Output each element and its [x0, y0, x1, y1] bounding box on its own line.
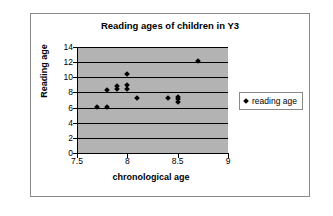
x-tick-mark: [127, 154, 128, 158]
legend-label: reading age: [252, 96, 297, 106]
y-tick-mark: [73, 47, 77, 48]
y-tick-mark: [73, 62, 77, 63]
x-tick-label: 8.5: [172, 157, 184, 166]
y-axis-title: Reading age: [39, 36, 49, 106]
chart-legend: reading age: [239, 92, 303, 110]
x-tick-label: 7.5: [71, 157, 83, 166]
x-axis-tick-labels: 7.588.59: [77, 157, 228, 169]
data-point: [135, 95, 141, 101]
gridline: [77, 92, 228, 93]
x-tick-label: 9: [226, 157, 231, 166]
x-tick-mark: [228, 154, 229, 158]
plot-area: [77, 47, 228, 153]
x-tick-label: 8: [125, 157, 130, 166]
y-tick-mark: [73, 138, 77, 139]
y-tick-label: 10: [64, 73, 73, 82]
gridline: [77, 108, 228, 109]
x-axis-title: chronological age: [51, 172, 251, 182]
x-tick-mark: [77, 154, 78, 158]
y-tick-mark: [73, 92, 77, 93]
gridline: [77, 123, 228, 124]
y-axis-line: [77, 47, 78, 154]
gridline: [77, 138, 228, 139]
gridline: [77, 77, 228, 78]
data-point: [165, 95, 171, 101]
x-axis-line: [77, 153, 229, 154]
y-tick-label: 12: [64, 58, 73, 67]
y-tick-mark: [73, 108, 77, 109]
gridline: [77, 62, 228, 63]
chart-frame: Reading ages of children in Y3 024681012…: [30, 13, 310, 197]
gridline: [77, 47, 228, 48]
y-axis-tick-labels: 02468101214: [51, 47, 73, 153]
chart-title: Reading ages of children in Y3: [31, 20, 309, 31]
data-point: [124, 82, 130, 88]
y-tick-mark: [73, 123, 77, 124]
y-tick-mark: [73, 77, 77, 78]
x-tick-mark: [178, 154, 179, 158]
y-tick-label: 14: [64, 43, 73, 52]
legend-marker-icon: [243, 98, 249, 104]
